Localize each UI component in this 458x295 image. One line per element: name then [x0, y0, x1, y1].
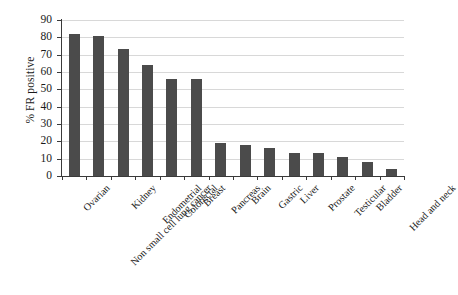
x-axis-category-label: Head and neck	[408, 183, 458, 233]
x-axis-category-label: Liver	[299, 183, 322, 206]
y-tick-mark	[57, 89, 62, 90]
y-tick-mark	[57, 124, 62, 125]
y-tick-mark	[57, 159, 62, 160]
x-axis-category-label: Kidney	[130, 183, 158, 211]
y-tick-mark	[57, 141, 62, 142]
y-tick-mark	[57, 37, 62, 38]
y-tick-mark	[57, 20, 62, 21]
y-tick-mark	[57, 176, 62, 177]
y-tick-mark	[57, 55, 62, 56]
y-tick-mark	[57, 72, 62, 73]
x-axis-category-label: Ovarian	[82, 183, 112, 213]
y-tick-mark	[57, 107, 62, 108]
